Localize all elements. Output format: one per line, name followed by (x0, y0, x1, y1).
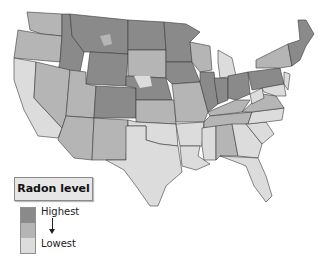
state-new-england (288, 20, 314, 66)
state-arkansas (176, 122, 204, 146)
state-colorado (94, 86, 136, 118)
swatch-lowest (21, 238, 35, 253)
swatch-highest (21, 208, 35, 223)
state-south-dakota (128, 50, 166, 78)
state-wyoming (86, 52, 128, 86)
state-kansas (136, 100, 176, 124)
state-north-dakota (128, 20, 166, 50)
state-new-york (256, 44, 292, 68)
state-ohio (228, 72, 250, 100)
arrow-down-icon (52, 218, 53, 232)
legend-title: Radon level (14, 177, 93, 201)
radon-map (0, 0, 328, 260)
legend-swatches (20, 207, 36, 254)
state-michigan (218, 50, 236, 78)
legend-low-label: Lowest (41, 238, 76, 249)
state-mississippi (202, 126, 216, 160)
legend-high-label: Highest (41, 206, 79, 217)
state-new-mexico (92, 118, 128, 160)
swatch-moderate (21, 223, 35, 238)
state-new-jersey (284, 72, 290, 90)
state-florida (220, 156, 272, 202)
